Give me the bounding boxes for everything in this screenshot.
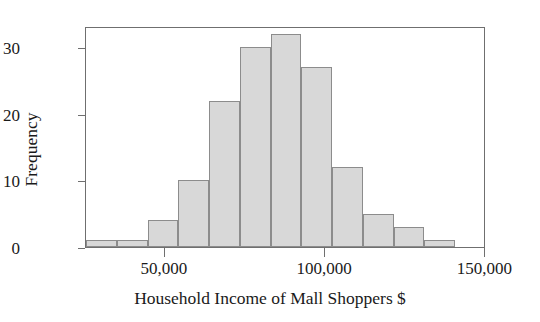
histogram-bar bbox=[363, 214, 394, 247]
histogram-bar bbox=[86, 240, 117, 247]
y-tick-mark bbox=[78, 48, 85, 49]
y-tick-label: 20 bbox=[3, 107, 20, 124]
histogram-bar bbox=[301, 67, 332, 247]
y-tick-mark bbox=[78, 115, 85, 116]
histogram-bar bbox=[424, 240, 455, 247]
x-tick-mark bbox=[484, 248, 485, 257]
y-tick-mark bbox=[78, 181, 85, 182]
x-axis-title: Household Income of Mall Shoppers $ bbox=[0, 288, 540, 309]
y-tick-mark bbox=[78, 248, 85, 249]
x-tick-label: 50,000 bbox=[140, 259, 187, 279]
x-tick-mark bbox=[164, 248, 165, 257]
histogram-bar bbox=[178, 180, 209, 247]
histogram-bars bbox=[86, 28, 484, 247]
histogram-figure: Frequency 0102030 50,000100,000150,000 H… bbox=[0, 0, 540, 322]
plot-area bbox=[85, 27, 485, 248]
histogram-bar bbox=[271, 34, 302, 247]
histogram-bar bbox=[148, 220, 179, 247]
y-tick-label: 30 bbox=[3, 40, 20, 57]
histogram-bar bbox=[240, 47, 271, 247]
histogram-bar bbox=[332, 167, 363, 247]
x-tick-mark bbox=[324, 248, 325, 257]
y-tick-label: 10 bbox=[3, 173, 20, 190]
y-tick-label: 0 bbox=[12, 240, 21, 257]
x-tick-label: 100,000 bbox=[296, 259, 351, 279]
histogram-bar bbox=[394, 227, 425, 247]
x-tick-label: 150,000 bbox=[457, 259, 512, 279]
histogram-bar bbox=[209, 101, 240, 247]
y-axis-title: Frequency bbox=[21, 90, 42, 210]
histogram-bar bbox=[117, 240, 148, 247]
